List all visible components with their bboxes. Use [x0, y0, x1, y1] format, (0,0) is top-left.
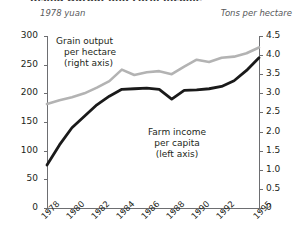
- chart-container: Rising Output and Farm Income 1978 yuan …: [0, 0, 302, 250]
- farm-annotation-line1: Farm income: [148, 127, 206, 138]
- grain-annotation-line3: (right axis): [56, 58, 116, 69]
- grain-annotation-line2: per hectare: [56, 47, 116, 58]
- farm-annotation-line2: per capita: [148, 138, 206, 149]
- farm-annotation-line3: (left axis): [148, 149, 206, 160]
- grain-output-annotation: Grain output per hectare (right axis): [56, 36, 116, 69]
- farm-income-annotation: Farm income per capita (left axis): [148, 127, 206, 160]
- grain-annotation-line1: Grain output: [56, 36, 116, 47]
- plot-lines: [0, 0, 302, 250]
